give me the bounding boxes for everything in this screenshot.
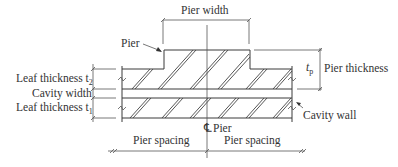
pier-width-label: Pier width xyxy=(181,4,229,16)
centerline-pier-label: Pier xyxy=(213,122,232,134)
left-dimensions xyxy=(91,64,116,122)
cavity-width-label: Cavity width xyxy=(32,87,92,100)
pier-pointer-label: Pier xyxy=(121,37,140,49)
leaf-thickness-t2-label: Leaf thickness t2 xyxy=(16,72,93,87)
pier-spacing-left-label: Pier spacing xyxy=(133,134,190,147)
pier-pointer-arrow-icon xyxy=(156,47,162,52)
tp-symbol: tp xyxy=(306,61,313,76)
cavity-wall-label: Cavity wall xyxy=(303,109,356,122)
pier-spacing-right-label: Pier spacing xyxy=(224,134,281,147)
pier-thickness-label: Pier thickness xyxy=(324,62,389,74)
lower-leaf-hatching xyxy=(130,98,292,118)
centerline-icon: ℄ xyxy=(203,122,212,134)
leaf-thickness-t1-label: Leaf thickness t1 xyxy=(16,101,93,116)
pier-width-dimension xyxy=(161,18,251,44)
cavity-wall-diagram: Pier width Pier Leaf thickness t2 Cavity… xyxy=(0,0,398,167)
